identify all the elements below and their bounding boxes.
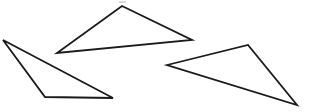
scan-speck-top (119, 1, 126, 3)
triangles-figure (0, 0, 313, 112)
image-canvas (0, 0, 313, 112)
